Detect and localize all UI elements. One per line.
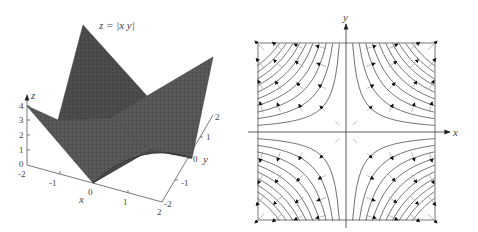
gradient-arrow: [316, 46, 327, 49]
level-curve: [379, 165, 434, 220]
gradient-arrow: [353, 121, 357, 125]
gradient-arrow: [366, 63, 375, 66]
svg-text:1: 1: [206, 132, 211, 142]
level-curve: [258, 44, 313, 99]
gradient-arrow: [366, 215, 377, 218]
gradient-arrow: [366, 46, 377, 49]
svg-text:0: 0: [193, 154, 198, 164]
y-axis-label: y: [342, 11, 348, 23]
gradient-arrow: [272, 214, 282, 222]
gradient-arrow: [316, 215, 327, 218]
level-curve: [258, 44, 320, 106]
gradient-arrow: [428, 41, 437, 50]
figure: z = |x y| z 0 1 2 3 4 -2 -1 0 1 2 x -2 -…: [0, 0, 478, 232]
gradient-arrow: [353, 139, 357, 143]
surface-plot: z = |x y| z 0 1 2 3 4 -2 -1 0 1 2 x -2 -…: [18, 19, 220, 217]
gradient-arrow: [389, 83, 396, 90]
level-curve: [258, 165, 313, 220]
gradient-arrow: [412, 152, 415, 161]
svg-text:-2: -2: [164, 199, 172, 209]
svg-text:1: 1: [123, 197, 128, 207]
svg-text:2: 2: [19, 130, 24, 140]
plot-frame: [258, 43, 435, 220]
surface-title: z = |x y|: [98, 19, 135, 31]
gradient-arrow: [428, 214, 437, 223]
z-axis-label: z: [30, 89, 36, 101]
x-axis-label: x: [78, 193, 84, 205]
gradient-arrow: [297, 175, 304, 182]
gradient-arrow: [260, 102, 263, 113]
gradient-arrow: [255, 214, 264, 223]
svg-text:0: 0: [19, 159, 24, 169]
gradient-arrow: [429, 152, 432, 163]
gradient-arrow: [260, 152, 263, 163]
gradient-arrow: [277, 152, 280, 161]
svg-text:0: 0: [88, 187, 93, 197]
gradient-arrow: [277, 103, 280, 112]
gradient-arrow: [410, 214, 420, 222]
gradient-arrow: [317, 63, 326, 66]
svg-text:2: 2: [215, 112, 220, 122]
gradient-arrow: [256, 196, 264, 206]
level-curve: [373, 159, 435, 221]
svg-text:-1: -1: [49, 178, 57, 188]
y-axis-label: y: [202, 153, 208, 165]
gradient-arrow: [335, 121, 339, 125]
svg-text:-1: -1: [181, 178, 189, 188]
svg-text:3: 3: [19, 115, 24, 125]
contour-plot: x y: [248, 11, 458, 228]
gradient-arrow: [412, 103, 415, 112]
svg-text:4: 4: [19, 101, 24, 111]
svg-text:1: 1: [19, 145, 24, 155]
gradient-arrow: [297, 83, 304, 90]
gradient-arrow: [389, 175, 396, 182]
gradient-arrow: [429, 102, 432, 113]
svg-text:-2: -2: [18, 169, 26, 179]
gradient-arrow: [256, 58, 264, 68]
gradient-arrow: [335, 139, 339, 143]
level-curve: [379, 44, 434, 99]
x-axis-label: x: [452, 126, 458, 138]
gradient-arrow: [255, 41, 264, 50]
svg-text:2: 2: [157, 207, 162, 217]
gradient-arrow: [366, 198, 375, 201]
z-tick-labels: 0 1 2 3 4: [19, 101, 24, 169]
level-curve: [373, 44, 435, 106]
surface-mesh: [27, 25, 213, 183]
level-curve: [258, 159, 320, 221]
gradient-arrow: [317, 198, 326, 201]
